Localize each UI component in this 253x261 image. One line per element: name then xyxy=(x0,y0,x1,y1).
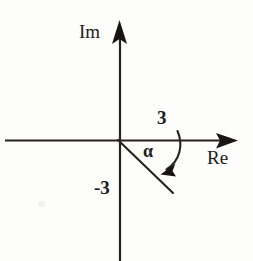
arc-arrowhead-icon xyxy=(161,164,177,177)
imaginary-axis-label: Im xyxy=(79,22,100,41)
imaginary-value-label: -3 xyxy=(94,178,110,197)
scan-artifact-speck xyxy=(38,201,45,207)
magnitude-label: 3 xyxy=(157,108,167,127)
real-axis-label: Re xyxy=(207,148,228,167)
complex-plane-figure: Im Re 3 -3 α xyxy=(0,0,253,261)
diagram-canvas xyxy=(0,0,253,261)
angle-label: α xyxy=(143,142,153,160)
angle-arc xyxy=(167,131,181,170)
